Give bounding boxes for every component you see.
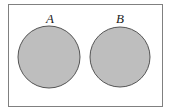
venn-diagram: A B bbox=[0, 0, 170, 112]
set-a-circle bbox=[18, 26, 80, 88]
set-b-circle bbox=[90, 27, 150, 87]
set-a-label: A bbox=[45, 11, 54, 26]
set-b-label: B bbox=[116, 11, 124, 26]
